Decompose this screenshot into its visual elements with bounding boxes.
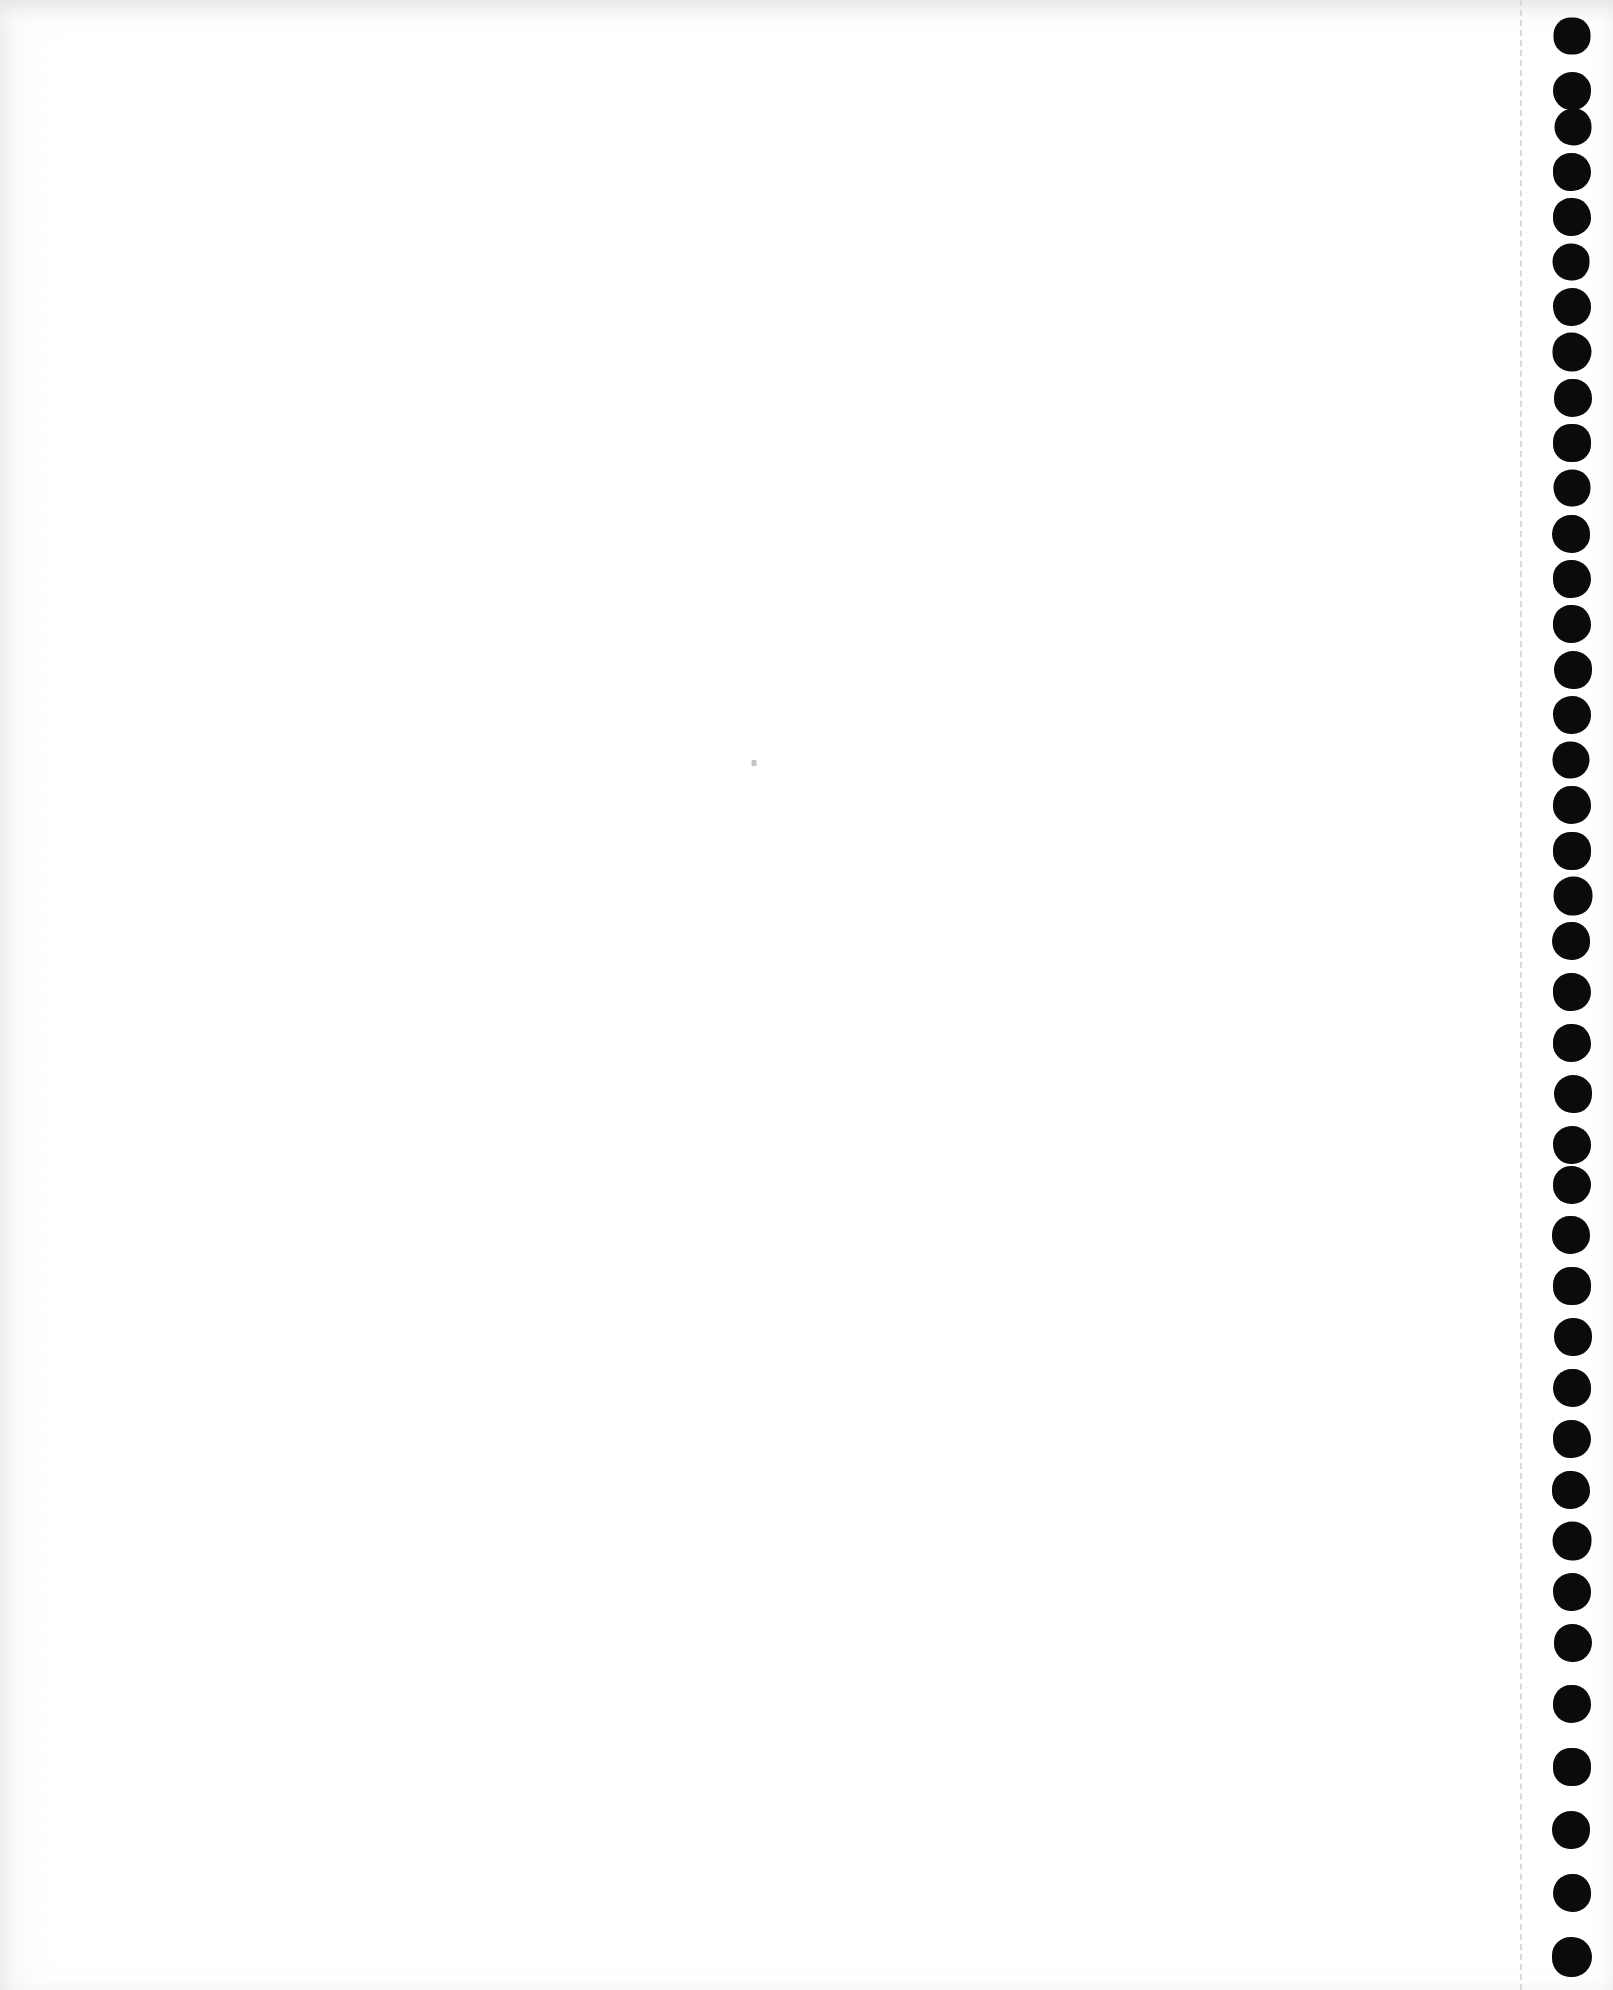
sprocket-hole [1554, 470, 1591, 507]
sprocket-hole [1553, 1369, 1591, 1407]
sprocket-hole [1553, 560, 1591, 598]
sprocket-hole [1553, 1024, 1591, 1062]
sprocket-hole [1553, 742, 1590, 779]
sprocket-hole [1553, 424, 1591, 462]
sprocket-hole [1553, 72, 1591, 110]
sprocket-hole [1553, 786, 1591, 824]
sprocket-hole [1552, 1937, 1592, 1977]
sprocket-hole [1553, 696, 1591, 734]
sprocket-hole [1553, 1874, 1591, 1912]
sprocket-hole [1553, 153, 1591, 191]
sprocket-hole [1552, 515, 1590, 553]
sprocket-hole [1553, 1748, 1591, 1786]
sprocket-hole [1554, 651, 1592, 689]
sprocket-hole [1554, 877, 1593, 916]
sprocket-hole [1552, 1216, 1590, 1254]
sprocket-hole [1553, 1573, 1591, 1611]
scanned-page [0, 0, 1613, 1990]
sprocket-hole [1553, 244, 1590, 281]
sprocket-hole [1553, 1420, 1591, 1458]
sprocket-hole [1552, 922, 1590, 960]
sprocket-hole [1553, 288, 1591, 326]
sprocket-hole [1552, 1471, 1590, 1509]
sprocket-hole [1554, 18, 1591, 55]
sprocket-hole [1553, 1267, 1591, 1305]
sprocket-hole [1553, 1126, 1591, 1164]
sprocket-hole [1553, 198, 1591, 236]
sprocket-hole [1554, 1075, 1592, 1113]
sprocket-hole [1555, 109, 1592, 146]
sprocket-hole [1554, 379, 1592, 417]
sprocket-hole-column [0, 0, 1613, 1990]
sprocket-hole [1553, 1166, 1591, 1204]
scan-speck [752, 760, 757, 766]
sprocket-hole [1553, 832, 1591, 870]
sprocket-hole [1553, 1522, 1592, 1561]
sprocket-hole [1552, 1811, 1590, 1849]
sprocket-hole [1553, 973, 1591, 1011]
sprocket-hole [1553, 605, 1591, 643]
sprocket-hole [1553, 1685, 1591, 1723]
sprocket-hole [1554, 1318, 1592, 1356]
sprocket-hole [1553, 333, 1592, 372]
sprocket-hole [1554, 1624, 1592, 1662]
